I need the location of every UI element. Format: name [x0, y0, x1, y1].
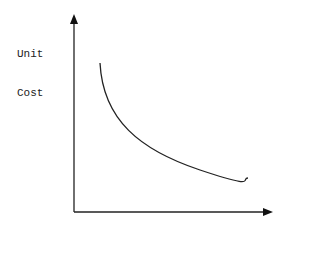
learning-curve-diagram	[0, 0, 332, 257]
x-axis-arrow-icon	[263, 208, 273, 216]
y-axis-arrow-icon	[70, 14, 78, 24]
learning-curve	[100, 63, 248, 182]
